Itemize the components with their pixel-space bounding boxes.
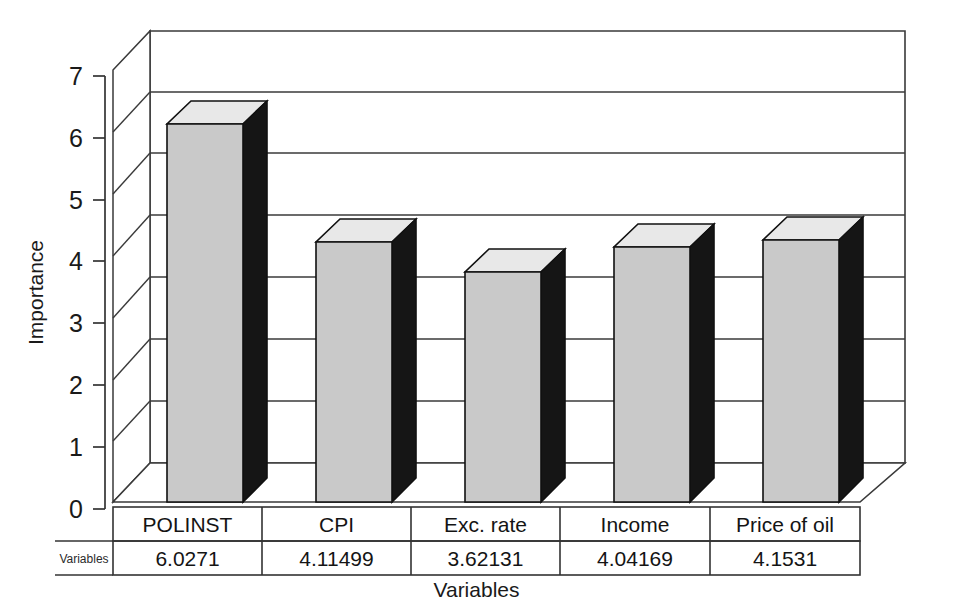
bar-polinst <box>167 101 267 502</box>
y-tick-label-1: 1 <box>43 433 83 462</box>
y-tick-label-6: 6 <box>43 124 83 153</box>
table-row-label: Variables <box>55 552 113 566</box>
table-value-cell: 6.0271 <box>113 547 262 571</box>
y-tick-label-4: 4 <box>43 247 83 276</box>
y-tick-label-3: 3 <box>43 309 83 338</box>
y-tick-label-5: 5 <box>43 186 83 215</box>
table-header-cell: Income <box>560 513 710 537</box>
bar-exc-rate <box>465 249 565 502</box>
table-header-cell: POLINST <box>113 513 262 537</box>
left-wall <box>113 31 150 502</box>
table-header-cell: Exc. rate <box>411 513 560 537</box>
bar-cpi <box>316 219 416 502</box>
table-header-cell: CPI <box>262 513 411 537</box>
y-axis-title: Importance <box>24 240 48 345</box>
y-tick-label-2: 2 <box>43 371 83 400</box>
table-value-cell: 3.62131 <box>411 547 560 571</box>
y-axis <box>93 76 105 509</box>
table-header-cell: Price of oil <box>710 513 860 537</box>
chart-figure: 7 6 5 4 3 2 1 0 Importance POLINST CPI E… <box>0 0 953 608</box>
bar-price-of-oil <box>763 217 863 502</box>
bar-income <box>614 224 714 502</box>
x-axis-title: Variables <box>0 578 953 602</box>
table-value-cell: 4.04169 <box>560 547 710 571</box>
y-tick-label-0: 0 <box>43 495 83 524</box>
table-value-cell: 4.11499 <box>262 547 411 571</box>
table-value-cell: 4.1531 <box>710 547 860 571</box>
y-tick-label-7: 7 <box>43 62 83 91</box>
